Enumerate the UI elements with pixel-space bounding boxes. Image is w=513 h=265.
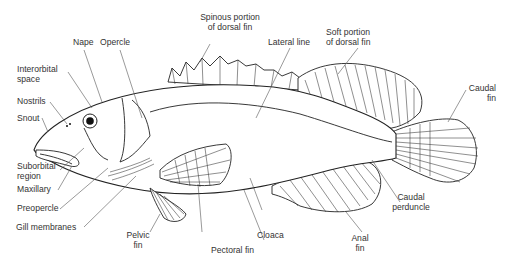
- nostrils: [66, 125, 68, 127]
- label-suborbital-region: Suborbital region: [17, 161, 56, 181]
- label-nostrils: Nostrils: [17, 96, 46, 106]
- caudal-fin: [392, 119, 478, 182]
- label-nape: Nape: [73, 37, 94, 47]
- label-soft-dorsal: Soft portion of dorsal fin: [326, 27, 370, 47]
- label-gill-membranes: Gill membranes: [16, 222, 76, 232]
- label-caudal-fin: Caudal fin: [460, 83, 496, 103]
- label-opercle: Opercle: [100, 37, 130, 47]
- label-preopercle: Preopercle: [17, 203, 59, 213]
- label-pectoral-fin: Pectoral fin: [211, 245, 254, 255]
- label-anal-fin: Anal fin: [345, 233, 375, 253]
- label-maxillary: Maxillary: [17, 184, 51, 194]
- label-snout: Snout: [17, 113, 39, 123]
- label-lateral-line: Lateral line: [268, 37, 310, 47]
- label-caudal-peduncle: Caudal perduncle: [388, 192, 434, 212]
- label-pelvic-fin: Pelvic fin: [120, 230, 156, 250]
- label-interorbital-space: Interorbital space: [17, 64, 58, 84]
- label-cloaca: Cloaca: [257, 230, 284, 240]
- label-spinous-dorsal: Spinous portion of dorsal fin: [178, 12, 282, 32]
